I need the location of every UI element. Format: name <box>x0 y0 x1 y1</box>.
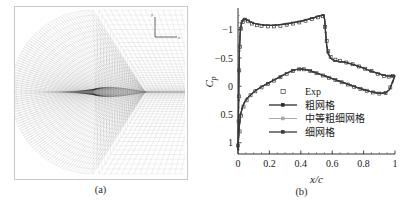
y-tick-label: −0.5 <box>215 53 233 64</box>
series-marker <box>325 32 327 34</box>
series-marker <box>375 92 377 94</box>
legend-marker-exp <box>281 89 285 93</box>
legend-label: 细网格 <box>305 126 335 138</box>
series-marker <box>237 149 239 151</box>
axis-orientation-indicator: y x <box>147 11 183 45</box>
series-marker <box>238 100 240 102</box>
legend-marker <box>281 103 285 107</box>
series-marker <box>313 71 315 73</box>
y-axis-label: Cp <box>203 76 218 87</box>
cp-plot-svg: 00.20.40.60.81−1−0.500.51Cpx/cExp粗网格中等粗细… <box>201 0 402 186</box>
y-tick-label: 1 <box>228 137 233 148</box>
x-tick-label: 0.8 <box>357 158 370 169</box>
legend-label: 粗网格 <box>305 99 335 111</box>
x-tick-label: 0.2 <box>263 158 276 169</box>
panel-a-mesh: y x (a) <box>0 0 201 209</box>
axis-indicator-y-label: y <box>151 12 153 17</box>
series-marker <box>239 50 241 52</box>
panel-a-caption: (a) <box>0 184 201 195</box>
x-axis-label: x/c <box>309 173 323 185</box>
series-marker <box>392 81 394 83</box>
legend-marker <box>281 117 285 121</box>
mesh-plot-frame: y x <box>14 6 188 180</box>
series-marker <box>280 76 282 78</box>
legend-label: 中等粗细网格 <box>305 112 365 124</box>
series-marker <box>292 70 294 72</box>
series-marker <box>325 76 327 78</box>
x-tick-label: 0.6 <box>326 158 339 169</box>
series-marker <box>350 85 352 87</box>
x-tick-label: 0 <box>236 158 241 169</box>
x-tick-label: 0.4 <box>295 158 308 169</box>
x-tick-label: 1 <box>393 158 398 169</box>
series-marker <box>363 89 365 91</box>
panel-b-caption: (b) <box>201 186 402 197</box>
y-tick-label: −1 <box>222 24 233 35</box>
series-marker <box>338 80 340 82</box>
series-marker <box>385 92 387 94</box>
y-tick-label: 0 <box>228 81 233 92</box>
axis-indicator-x-label: x <box>178 35 180 40</box>
panel-b-cp-chart: 00.20.40.60.81−1−0.500.51Cpx/cExp粗网格中等粗细… <box>201 0 402 209</box>
legend-marker <box>281 130 285 134</box>
series-marker <box>267 83 269 85</box>
y-tick-label: 0.5 <box>221 109 234 120</box>
legend-label: Exp <box>305 86 321 97</box>
series-marker <box>239 126 241 128</box>
two-panel-figure: y x (a) 00.20.40.60.81−1−0.500.51Cpx/cEx… <box>0 0 402 209</box>
